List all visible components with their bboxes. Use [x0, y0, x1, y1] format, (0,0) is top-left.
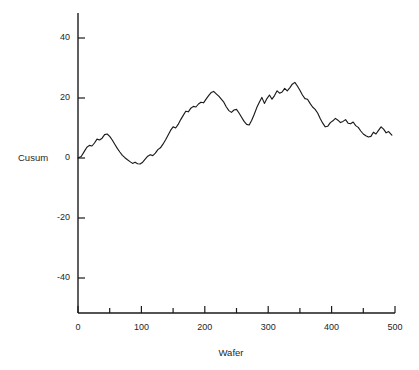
data-series-group	[78, 82, 392, 164]
chart-plot-area	[0, 0, 419, 370]
y-axis-tick-label: -20	[57, 213, 70, 222]
x-axis-tick-label: 300	[248, 323, 288, 332]
x-axis-tick-label: 100	[121, 323, 161, 332]
y-axis-tick-label: 40	[60, 33, 70, 42]
cusum-chart: 40200-20-40 0100200300400500 Cusum Wafer	[0, 0, 419, 370]
x-axis-title: Wafer	[219, 348, 244, 358]
x-axis-tick-label: 200	[185, 323, 225, 332]
x-axis-tick-label: 500	[375, 323, 415, 332]
y-axis-title: Cusum	[18, 153, 48, 163]
axis-lines	[78, 13, 395, 313]
x-axis-tick-label: 400	[312, 323, 352, 332]
y-axis-tick-label: 20	[60, 93, 70, 102]
data-series-line	[78, 82, 392, 164]
y-axis-tick-label: -40	[57, 273, 70, 282]
x-axis-tick-label: 0	[58, 323, 98, 332]
y-axis-tick-label: 0	[65, 153, 70, 162]
x-axis-ticks	[78, 306, 395, 313]
